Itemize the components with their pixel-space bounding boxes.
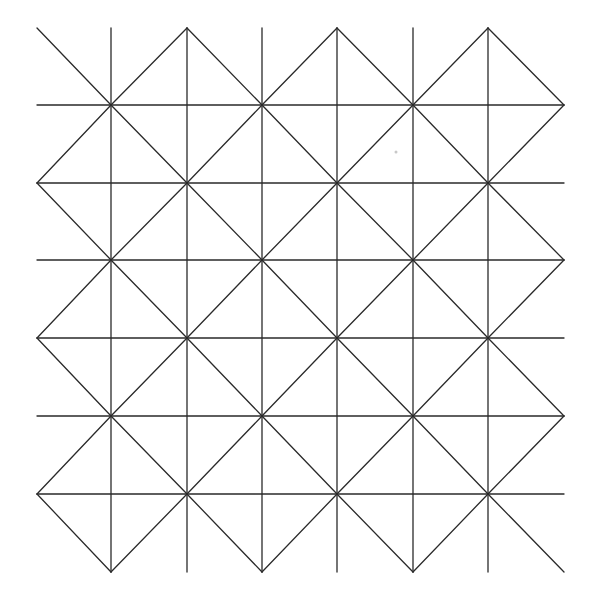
diagonal-line	[262, 338, 337, 416]
diagonal-line	[488, 28, 564, 105]
diagonal-line	[337, 416, 413, 494]
diagonal-line	[37, 105, 111, 183]
diagonal-line	[337, 105, 413, 183]
diagonal-line	[413, 183, 488, 260]
vertical-grid-lines	[111, 28, 488, 572]
diagonal-line	[413, 416, 488, 494]
diagonal-line	[111, 338, 187, 416]
stray-dot	[395, 151, 398, 154]
diagonal-line	[111, 28, 187, 105]
diagonal-line	[488, 183, 564, 260]
diagonal-line	[337, 183, 413, 260]
diagonal-line	[262, 183, 337, 260]
diagonal-line	[111, 183, 187, 260]
diagonal-line	[37, 494, 111, 572]
diagonal-line	[488, 260, 564, 338]
diagonal-line	[187, 494, 262, 572]
diagonal-line	[262, 260, 337, 338]
diagonal-line	[488, 416, 564, 494]
diagonal-line	[262, 105, 337, 183]
diagonal-line	[337, 494, 413, 572]
diagonal-line	[187, 28, 262, 105]
diagonal-line	[37, 338, 111, 416]
diagonal-line	[37, 416, 111, 494]
diagonal-line	[37, 260, 111, 338]
diagonal-line	[187, 105, 262, 183]
diagonal-line	[37, 183, 111, 260]
diagonal-line	[337, 260, 413, 338]
diagonal-line	[413, 494, 488, 572]
diagonal-line	[262, 28, 337, 105]
diagonal-line	[413, 28, 488, 105]
diagonal-line	[187, 183, 262, 260]
diagonal-line	[187, 260, 262, 338]
diagonal-line	[413, 260, 488, 338]
diagonal-diamond-lines	[37, 28, 564, 572]
diamond-grid-diagram	[0, 0, 600, 601]
diagonal-line	[111, 416, 187, 494]
diagonal-line	[187, 338, 262, 416]
diagonal-line	[111, 105, 187, 183]
diagonal-line	[413, 105, 488, 183]
diagonal-line	[187, 416, 262, 494]
diagonal-line	[262, 494, 337, 572]
diagonal-line	[111, 494, 187, 572]
diagonal-line	[488, 105, 564, 183]
diagonal-line	[413, 338, 488, 416]
diagonal-line	[488, 338, 564, 416]
diagonal-line	[111, 260, 187, 338]
diagonal-line	[337, 338, 413, 416]
diagonal-line	[262, 416, 337, 494]
diagonal-line	[37, 28, 111, 105]
diagonal-line	[488, 494, 564, 572]
diagonal-line	[337, 28, 413, 105]
